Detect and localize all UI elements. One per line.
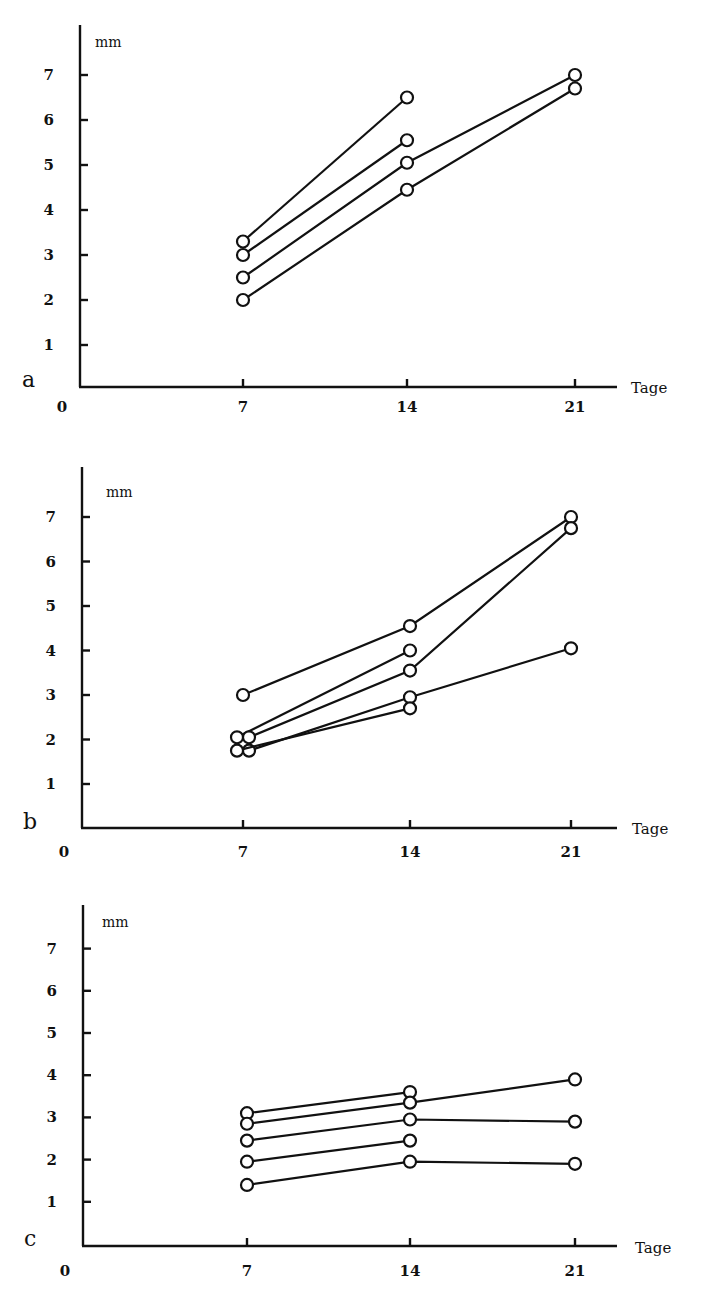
y-tick-label: 5 [44, 156, 54, 174]
data-point-circle-icon [404, 1156, 416, 1168]
y-tick-label: 3 [47, 1108, 57, 1126]
x-tick-label: 7 [242, 1262, 252, 1280]
y-tick-label: 3 [46, 686, 56, 704]
y-tick-label: 4 [44, 201, 54, 219]
data-point-circle-icon [569, 1158, 581, 1170]
figure: 1234567071421mmTagea1234567071421mmTageb… [0, 0, 705, 1298]
series-c5 [241, 1156, 581, 1191]
y-unit-label: mm [106, 484, 133, 500]
series-line [247, 1141, 410, 1162]
data-point-circle-icon [565, 642, 577, 654]
data-point-circle-icon [569, 1073, 581, 1085]
x-tick-label: 7 [238, 843, 248, 861]
data-point-circle-icon [237, 294, 249, 306]
series-line [243, 75, 575, 278]
data-point-circle-icon [565, 522, 577, 534]
y-tick-label: 4 [46, 642, 56, 660]
series-b4 [243, 642, 577, 756]
data-point-circle-icon [404, 645, 416, 657]
data-point-circle-icon [401, 184, 413, 196]
data-point-circle-icon [231, 731, 243, 743]
data-point-circle-icon [241, 1156, 253, 1168]
y-unit-label: mm [95, 34, 122, 50]
data-point-circle-icon [569, 69, 581, 81]
x-tick-label: 14 [397, 398, 418, 416]
chart-panel-c: 1234567071421mmTagec [24, 905, 671, 1280]
x-axis-label: Tage [635, 1239, 671, 1257]
series-line [237, 708, 410, 750]
x-tick-label: 7 [238, 398, 248, 416]
y-tick-label: 7 [47, 940, 57, 958]
y-tick-label: 4 [47, 1066, 57, 1084]
data-point-circle-icon [404, 1114, 416, 1126]
x-axis-label: Tage [631, 379, 667, 397]
series-line [243, 140, 407, 255]
y-unit-label: mm [102, 914, 129, 930]
y-tick-label: 3 [44, 246, 54, 264]
x-tick-label: 0 [60, 1262, 70, 1280]
y-tick-label: 1 [47, 1193, 57, 1211]
x-tick-label: 14 [400, 1262, 421, 1280]
data-point-circle-icon [401, 134, 413, 146]
series-a2 [237, 134, 413, 261]
data-point-circle-icon [231, 745, 243, 757]
series-a4 [237, 83, 581, 307]
chart-panel-b: 1234567071421mmTageb [23, 467, 668, 861]
data-point-circle-icon [569, 1116, 581, 1128]
data-point-circle-icon [404, 665, 416, 677]
data-point-circle-icon [404, 702, 416, 714]
series-a1 [237, 92, 413, 248]
data-point-circle-icon [404, 620, 416, 632]
y-tick-label: 6 [46, 553, 56, 571]
x-tick-label: 21 [561, 843, 582, 861]
panel-letter: a [22, 367, 35, 392]
x-tick-label: 21 [565, 398, 586, 416]
series-c4 [241, 1135, 416, 1168]
data-point-circle-icon [241, 1179, 253, 1191]
y-tick-label: 1 [46, 775, 56, 793]
y-tick-label: 6 [47, 982, 57, 1000]
data-point-circle-icon [241, 1118, 253, 1130]
data-point-circle-icon [404, 1097, 416, 1109]
data-point-circle-icon [237, 249, 249, 261]
data-point-circle-icon [404, 1135, 416, 1147]
panel-letter: c [24, 1226, 36, 1251]
data-point-circle-icon [401, 157, 413, 169]
growth-charts-figure: 1234567071421mmTagea1234567071421mmTageb… [0, 0, 705, 1298]
data-point-circle-icon [237, 272, 249, 284]
chart-panel-a: 1234567071421mmTagea [22, 25, 667, 416]
x-axis-label: Tage [632, 820, 668, 838]
y-tick-label: 5 [47, 1024, 57, 1042]
y-tick-label: 2 [46, 731, 56, 749]
panel-letter: b [23, 809, 37, 834]
series-line [247, 1092, 410, 1113]
y-tick-label: 7 [44, 66, 54, 84]
series-line [237, 651, 410, 738]
y-tick-label: 2 [47, 1151, 57, 1169]
data-point-circle-icon [569, 83, 581, 95]
y-tick-label: 1 [44, 336, 54, 354]
x-tick-label: 0 [57, 398, 67, 416]
y-tick-label: 2 [44, 291, 54, 309]
y-tick-label: 6 [44, 111, 54, 129]
y-tick-label: 5 [46, 597, 56, 615]
data-point-circle-icon [401, 92, 413, 104]
data-point-circle-icon [241, 1135, 253, 1147]
data-point-circle-icon [237, 689, 249, 701]
data-point-circle-icon [243, 731, 255, 743]
data-point-circle-icon [237, 236, 249, 248]
y-tick-label: 7 [46, 508, 56, 526]
x-tick-label: 14 [400, 843, 421, 861]
x-tick-label: 21 [565, 1262, 586, 1280]
x-tick-label: 0 [59, 843, 69, 861]
